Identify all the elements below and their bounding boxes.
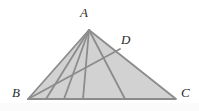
vertex-label-a: A <box>80 6 88 19</box>
vertex-label-b: B <box>12 86 20 99</box>
vertex-label-c: C <box>181 86 190 99</box>
triangle-group <box>28 30 176 99</box>
vertex-label-d: D <box>121 33 130 46</box>
triangle-abc <box>28 30 176 99</box>
bottom-band <box>0 103 199 111</box>
figure-canvas <box>0 0 199 111</box>
geometry-figure: A B C D <box>0 0 199 111</box>
